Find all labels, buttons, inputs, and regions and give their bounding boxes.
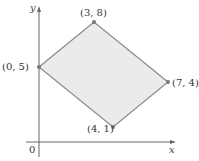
y-axis-arrow-icon — [37, 6, 41, 12]
vertex-label: (3, 8) — [80, 7, 107, 18]
vertex-label: (0, 5) — [2, 61, 29, 72]
vertex-point — [166, 80, 170, 84]
feasible-region-diagram: (0, 5) (3, 8) (7, 4) (4, 1) y x 0 — [0, 0, 199, 161]
vertex-point — [37, 65, 41, 69]
y-axis-label: y — [29, 2, 36, 13]
vertex-label: (4, 1) — [87, 123, 114, 134]
vertex-point — [92, 20, 96, 24]
x-axis-label: x — [169, 144, 175, 155]
shaded-region — [39, 22, 168, 127]
origin-label: 0 — [29, 144, 35, 155]
vertex-label: (7, 4) — [172, 77, 199, 88]
